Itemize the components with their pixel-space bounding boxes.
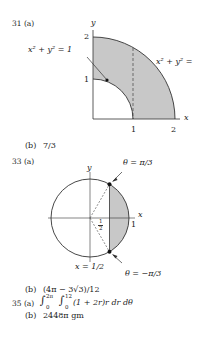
axis-y-label: y — [87, 164, 92, 172]
problem-35-a-label: 35 (a) — [12, 300, 34, 308]
inner-upper-limit: 12 — [65, 294, 72, 300]
label-theta-bottom: θ = −π/3 — [125, 270, 161, 278]
problem-35-b-label: (b) — [25, 312, 36, 320]
axis-x-label: x — [138, 211, 143, 219]
integral-sign-outer: ∫ — [40, 295, 46, 306]
tick-x-1: 1 — [131, 221, 136, 229]
problem-35-b-answer: 2448π gm — [43, 312, 84, 320]
half-label-denominator: 2 — [99, 226, 103, 232]
half-label-numerator: 1 — [99, 219, 103, 225]
integrand: (1 + 2r)r dr dθ — [73, 299, 133, 307]
outer-upper-limit: 2π — [46, 294, 53, 300]
problem-33-b-label: (b) — [25, 286, 36, 294]
label-x-half: x = 1/2 — [75, 263, 104, 271]
inner-lower-limit: 0 — [65, 305, 69, 311]
integral-sign-inner: ∫ — [59, 295, 65, 306]
outer-lower-limit: 0 — [46, 305, 50, 311]
label-theta-top: θ = π/3 — [123, 159, 153, 167]
